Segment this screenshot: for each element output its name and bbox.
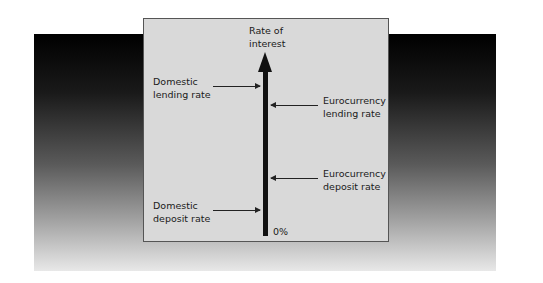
- arrow-left-icon: [271, 178, 318, 179]
- arrow-right-icon: [213, 86, 260, 87]
- label-eurocurrency-lending-rate: Eurocurrency lending rate: [323, 94, 386, 120]
- interest-rate-axis: [263, 70, 268, 236]
- arrow-right-icon: [213, 210, 260, 211]
- label-domestic-lending-rate: Domestic lending rate: [153, 75, 211, 101]
- label-domestic-deposit-rate: Domestic deposit rate: [153, 199, 210, 225]
- axis-title: Rate of interest: [249, 24, 283, 50]
- axis-origin-label: 0%: [273, 225, 288, 238]
- arrow-left-icon: [271, 105, 318, 106]
- label-eurocurrency-deposit-rate: Eurocurrency deposit rate: [323, 167, 386, 193]
- axis-arrowhead-icon: [258, 52, 272, 72]
